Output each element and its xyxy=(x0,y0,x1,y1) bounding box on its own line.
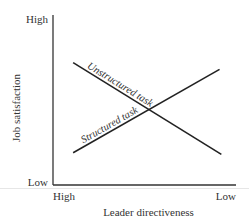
series-label-structured-task: Structured task xyxy=(79,104,140,145)
series-layer: Unstructured taskStructured task xyxy=(73,60,221,155)
chart: High Low High Low Leader directiveness J… xyxy=(0,0,249,222)
y-axis-title: Job satisfaction xyxy=(10,73,22,142)
x-tick-label-high: High xyxy=(53,190,76,202)
x-tick-label-low: Low xyxy=(216,190,236,202)
series-label-unstructured-task: Unstructured task xyxy=(86,60,156,109)
x-axis-title: Leader directiveness xyxy=(103,206,194,218)
y-tick-label-low: Low xyxy=(28,176,48,188)
y-tick-label-high: High xyxy=(26,13,49,25)
